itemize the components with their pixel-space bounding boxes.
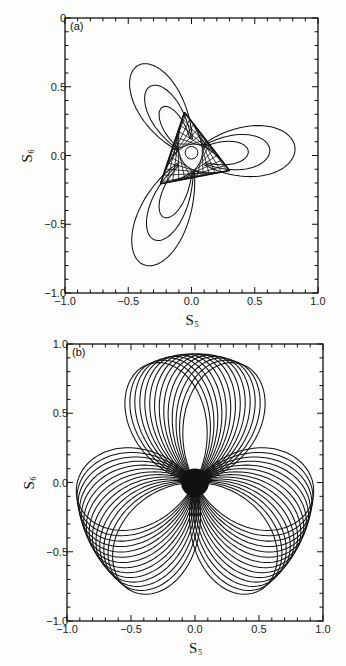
y-axis-title-b: S 6 [21, 477, 38, 490]
petal-loop [125, 363, 207, 483]
petal-loop [183, 363, 265, 483]
dense-center [181, 469, 209, 497]
x-axis-title-b: S 5 [189, 640, 202, 657]
x-tick-label: 0.0 [187, 623, 202, 635]
x-tick-label: −0.5 [120, 623, 142, 635]
y-tick-label: −1.0 [46, 615, 68, 627]
plot-b: −1.0−0.50.00.51.0−1.0−0.50.00.51.0 (b) S… [0, 0, 346, 666]
panel-b: −1.0−0.50.00.51.0−1.0−0.50.00.51.0 (b) S… [0, 0, 346, 666]
y-tick-label: 1.0 [53, 338, 68, 350]
svg-text:6: 6 [29, 477, 38, 481]
x-tick-label: 0.5 [251, 623, 266, 635]
trajectory-curves-b [76, 354, 313, 594]
y-tick-label: 0.0 [53, 477, 68, 489]
x-tick-label: 1.0 [315, 623, 330, 635]
y-tick-label: 0.5 [53, 407, 68, 419]
panel-label-b: (b) [72, 346, 85, 358]
svg-text:5: 5 [198, 648, 202, 657]
y-tick-label: −0.5 [46, 546, 68, 558]
svg-text:S: S [189, 640, 197, 656]
svg-text:S: S [21, 481, 37, 489]
